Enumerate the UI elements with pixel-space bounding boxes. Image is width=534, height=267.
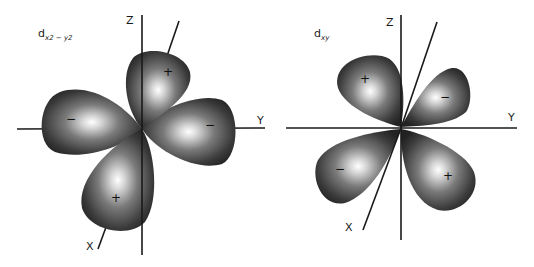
orbital-title-dxy: dxy	[314, 27, 330, 42]
sign-lower-left: −	[335, 162, 345, 176]
z-axis-label: Z	[126, 14, 134, 27]
diagram-dxy: Z Y X + − − + dxy	[286, 15, 517, 240]
lobe-upper-left	[337, 55, 403, 127]
diagram-dx2-y2: Z Y X + − − + dx2 − y2	[17, 14, 265, 255]
x-axis-label: X	[345, 221, 353, 234]
y-axis-label: Y	[507, 111, 515, 124]
sign-lower-right: +	[443, 169, 453, 183]
lobe-lower-left	[315, 129, 401, 204]
orbital-diagrams: Z Y X + − − + dx2 − y2 Z Y X + − − + dxy	[0, 0, 534, 267]
sign-bottom: +	[111, 191, 121, 205]
sign-right: −	[205, 118, 215, 132]
y-axis-label: Y	[256, 114, 264, 127]
lobe-lower-right	[401, 129, 476, 211]
sign-top: +	[163, 65, 173, 79]
x-axis-label: X	[86, 240, 94, 253]
sign-upper-left: +	[360, 72, 370, 86]
sign-upper-right: −	[440, 90, 450, 104]
orbital-title-dx2-y2: dx2 − y2	[38, 27, 73, 42]
z-axis-label: Z	[386, 16, 394, 29]
sign-left: −	[66, 112, 76, 126]
